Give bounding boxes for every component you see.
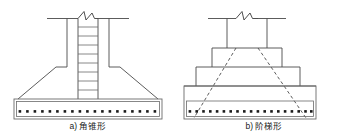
rebar-dot	[154, 110, 157, 113]
dashed-slope-guide-left	[194, 48, 236, 118]
rebar-dot	[223, 110, 226, 113]
panel-b-caption: b) 阶梯形	[246, 121, 283, 131]
base-slab-outline	[184, 86, 316, 119]
rebar-dot	[64, 110, 67, 113]
rebar-dot	[124, 110, 127, 113]
zigzag-break-icon	[78, 12, 98, 21]
rebar-dot	[270, 110, 273, 113]
panel-a-caption: a) 角锥形	[70, 121, 107, 131]
base-slab-inner-outline	[17, 102, 160, 117]
rebar-dot	[304, 110, 307, 113]
rebar-dot	[79, 110, 82, 113]
rebar-dot	[26, 110, 29, 113]
taper-slope-left	[18, 67, 56, 99]
base-slab-rebar-dots	[189, 110, 313, 113]
rebar-dot	[116, 110, 119, 113]
rebar-dot	[291, 110, 294, 113]
rebar-dot	[310, 110, 313, 113]
rebar-dot	[284, 110, 287, 113]
rebar-dot	[139, 110, 142, 113]
rebar-dot	[34, 110, 37, 113]
base-slab-outline	[14, 99, 162, 119]
rebar-dot	[109, 110, 112, 113]
panel-a-tapered-footing: a) 角锥形	[14, 12, 162, 132]
rebar-dot	[277, 110, 280, 113]
column-stirrup-group	[78, 27, 98, 90]
base-slab-rebar-dots	[19, 110, 157, 113]
rebar-dot	[195, 110, 198, 113]
rebar-dot	[229, 110, 232, 113]
rebar-dot	[49, 110, 52, 113]
engineering-figure: a) 角锥形	[0, 0, 351, 136]
rebar-dot	[19, 110, 22, 113]
rebar-dot	[94, 110, 97, 113]
rebar-dot	[216, 110, 219, 113]
taper-slope-right	[120, 67, 158, 99]
rebar-dot	[243, 110, 246, 113]
rebar-dot	[202, 110, 205, 113]
rebar-dot	[297, 110, 300, 113]
rebar-dot	[263, 110, 266, 113]
rebar-dot	[131, 110, 134, 113]
rebar-dot	[86, 110, 89, 113]
rebar-dot	[41, 110, 44, 113]
rebar-dot	[56, 110, 59, 113]
rebar-dot	[257, 110, 260, 113]
rebar-dot	[71, 110, 74, 113]
rebar-dot	[101, 110, 104, 113]
base-slab-inner-outline	[187, 101, 314, 117]
zigzag-break-icon	[236, 12, 258, 21]
rebar-dot	[250, 110, 253, 113]
panel-b-stepped-footing: b) 阶梯形	[184, 12, 316, 132]
foundation-types-drawing: a) 角锥形	[0, 0, 351, 136]
rebar-dot	[236, 110, 239, 113]
rebar-dot	[189, 110, 192, 113]
rebar-dot	[146, 110, 149, 113]
rebar-dot	[209, 110, 212, 113]
